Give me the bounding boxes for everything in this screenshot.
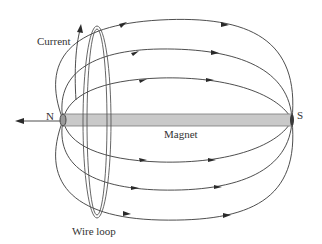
label-wire-loop: Wire loop (72, 225, 116, 237)
arrow-icon (221, 22, 229, 27)
arrow-icon (119, 22, 127, 28)
field-line-middle-top (62, 49, 292, 120)
magnet (60, 114, 294, 126)
arrow-left-icon (15, 118, 24, 124)
arrow-icon (223, 213, 231, 218)
label-magnet: Magnet (164, 128, 198, 140)
magnet-bar (63, 114, 292, 126)
magnet-south-end (290, 114, 294, 126)
current-arrow (75, 24, 83, 100)
arrow-icon (131, 51, 139, 56)
arrow-icon (123, 211, 131, 216)
magnet-north-end (60, 114, 66, 126)
arrow-icon (131, 186, 139, 190)
arrow-icon (211, 50, 219, 55)
label-south: S (297, 109, 303, 121)
arrow-up-icon (77, 24, 83, 33)
label-north: N (46, 110, 54, 122)
magnet-induction-diagram: Current N S Magnet Wire loop (0, 0, 322, 244)
arrow-icon (206, 78, 214, 82)
label-current: Current (37, 35, 71, 47)
